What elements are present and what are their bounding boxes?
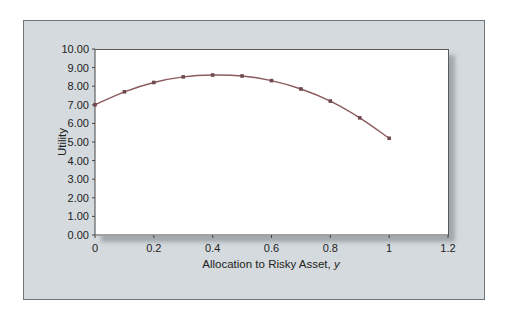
data-point (123, 90, 127, 94)
data-point (152, 81, 156, 85)
x-axis: 00.20.40.60.811.2 (92, 235, 456, 254)
y-tick-label: 4.00 (68, 155, 89, 167)
data-point (181, 75, 185, 79)
utility-series (93, 73, 391, 140)
data-point (240, 74, 244, 78)
x-tick-label: 1 (386, 242, 392, 254)
y-tick-label: 3.00 (68, 173, 89, 185)
utility-chart: 0.001.002.003.004.005.006.007.008.009.00… (0, 0, 507, 320)
y-tick-label: 1.00 (68, 210, 89, 222)
data-point (358, 116, 362, 120)
x-tick-label: 0.2 (146, 242, 161, 254)
y-tick-label: 9.00 (68, 62, 89, 74)
x-tick-label: 0.6 (264, 242, 279, 254)
data-point (270, 79, 274, 83)
y-tick-label: 8.00 (68, 80, 89, 92)
y-tick-label: 7.00 (68, 99, 89, 111)
x-tick-label: 0.8 (323, 242, 338, 254)
y-axis-title: Utility (56, 128, 68, 156)
data-point (299, 87, 303, 91)
data-point (211, 73, 215, 77)
y-tick-label: 0.00 (68, 229, 89, 241)
y-tick-label: 5.00 (68, 136, 89, 148)
x-axis-title: Allocation to Risky Asset, y (202, 258, 341, 270)
data-point (387, 136, 391, 140)
y-tick-label: 6.00 (68, 117, 89, 129)
x-tick-label: 0 (92, 242, 98, 254)
y-tick-label: 10.00 (61, 43, 89, 55)
y-tick-label: 2.00 (68, 192, 89, 204)
x-tick-label: 1.2 (440, 242, 455, 254)
data-point (93, 103, 97, 107)
data-point (329, 99, 333, 103)
x-tick-label: 0.4 (205, 242, 220, 254)
